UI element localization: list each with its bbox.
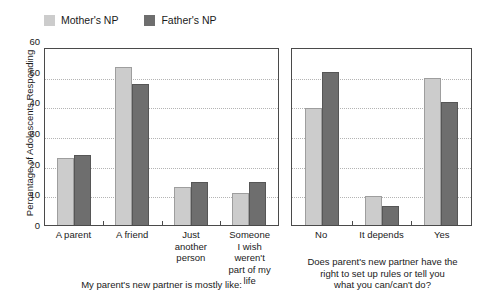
legend-label-mothers-np: Mother's NP	[61, 15, 118, 26]
bar-group	[220, 49, 278, 225]
bar-fathers-np	[191, 182, 208, 225]
caption-line: Does parent's new partner have the	[285, 256, 480, 268]
x-axis-ticks-right	[292, 221, 471, 226]
bar-group-container-right	[292, 49, 471, 225]
legend-swatch-icon-mothers-np	[44, 15, 55, 26]
bar-mothers-np	[424, 78, 441, 225]
x-label-line: Someone	[221, 229, 278, 241]
x-label-line: A parent	[45, 229, 102, 241]
chart-panel-right	[291, 48, 472, 226]
bar-group	[103, 49, 161, 225]
x-label-it-depends: It depends	[351, 229, 411, 241]
bar-fathers-np	[249, 182, 266, 225]
bar-group-container-left	[45, 49, 278, 225]
y-tick-30: 30	[16, 129, 40, 139]
caption-line: right to set up rules or tell you	[285, 268, 480, 280]
x-label-line: A friend	[104, 229, 161, 241]
y-tick-10: 10	[16, 190, 40, 200]
x-tick-mark	[103, 221, 104, 226]
bar-fathers-np	[74, 155, 91, 225]
legend-label-fathers-np: Father's NP	[161, 15, 216, 26]
caption-right: Does parent's new partner have the right…	[285, 256, 480, 291]
x-tick-mark	[162, 221, 163, 226]
x-label-line: I wish weren't	[221, 241, 278, 264]
y-tick-20: 20	[16, 160, 40, 170]
chart-legend: Mother's NP Father's NP	[44, 12, 284, 28]
bar-fathers-np	[322, 72, 339, 225]
caption-line: what you can/can't do?	[285, 279, 480, 291]
caption-left: My parent's new partner is mostly like:	[36, 279, 287, 291]
x-label-yes: Yes	[412, 229, 472, 241]
x-label-a-parent: A parent	[44, 229, 103, 241]
y-axis-tick-labels: 0 10 20 30 40 50 60	[16, 42, 40, 226]
x-axis-labels-left: A parent A friend Just another person So…	[44, 229, 279, 275]
x-label-just-another-person: Just another person	[162, 229, 221, 264]
bar-group	[45, 49, 103, 225]
x-tick-mark	[411, 221, 412, 226]
bar-mothers-np	[174, 187, 191, 225]
bar-group	[162, 49, 220, 225]
bar-group	[411, 49, 471, 225]
x-tick-mark	[220, 221, 221, 226]
x-label-someone-i-wish-werent: Someone I wish weren't part of my life	[220, 229, 279, 287]
x-axis-ticks-left	[45, 221, 278, 226]
bar-fathers-np	[441, 102, 458, 225]
bar-group	[352, 49, 412, 225]
y-tick-40: 40	[16, 98, 40, 108]
legend-entry-fathers-np: Father's NP	[144, 15, 216, 26]
x-label-no: No	[291, 229, 351, 241]
figure: Mother's NP Father's NP Percentage of Ad…	[0, 0, 483, 305]
x-label-line: person	[163, 252, 220, 264]
bar-fathers-np	[132, 84, 149, 225]
y-tick-50: 50	[16, 68, 40, 78]
bar-group	[292, 49, 352, 225]
bar-mothers-np	[57, 158, 74, 225]
legend-swatch-icon-fathers-np	[144, 15, 155, 26]
x-label-line: Just	[163, 229, 220, 241]
y-tick-0: 0	[16, 221, 40, 231]
x-tick-mark	[352, 221, 353, 226]
chart-panel-left	[44, 48, 279, 226]
y-tick-60: 60	[16, 37, 40, 47]
bar-mothers-np	[305, 108, 322, 225]
legend-entry-mothers-np: Mother's NP	[44, 15, 118, 26]
x-label-a-friend: A friend	[103, 229, 162, 241]
bar-mothers-np	[115, 67, 132, 225]
x-label-line: another	[163, 241, 220, 253]
